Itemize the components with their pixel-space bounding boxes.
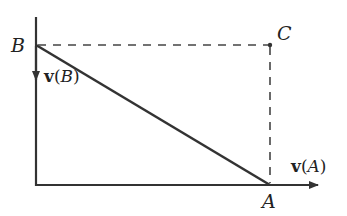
- label-C: C: [277, 22, 292, 44]
- label-vA: v(A): [290, 156, 326, 176]
- label-B: B: [10, 34, 25, 56]
- label-A: A: [260, 190, 276, 212]
- diagram-canvas: B C A v(B) v(A): [0, 0, 347, 216]
- label-vB: v(B): [43, 66, 80, 86]
- point-C-dot: [268, 43, 272, 47]
